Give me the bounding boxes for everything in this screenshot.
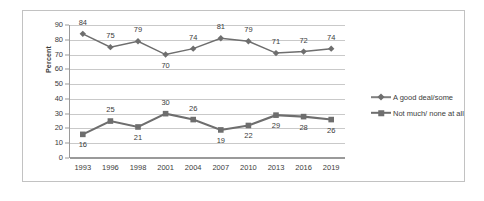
x-axis-tick-label: 2004 [185,163,202,172]
x-axis-tick-label: 1996 [102,163,119,172]
series-line [83,34,331,55]
x-axis-tick-label: 2010 [240,163,257,172]
y-axis-tick-label: 20 [55,125,63,133]
y-axis-tick-label: 80 [55,36,63,44]
chart-legend: A good deal/some Not much/ none at all [371,89,481,121]
data-label: 71 [272,38,280,46]
data-label: 84 [79,19,87,27]
data-label: 79 [244,26,252,34]
data-point-marker [108,118,114,124]
data-point-marker [328,117,334,123]
data-point-marker [190,117,196,123]
data-point-marker [190,45,196,51]
data-point-marker [162,51,168,57]
y-axis-tick-label: 30 [55,110,63,118]
legend-label: Not much/ none at all [393,109,464,118]
data-point-marker [107,44,113,50]
x-axis: 1993199619982001200420072010201320162019 [69,161,345,181]
x-axis-tick-label: 1998 [130,163,147,172]
series-lines [69,25,345,158]
data-label: 25 [106,106,114,114]
data-label: 30 [161,99,169,107]
data-label: 26 [327,127,335,135]
data-label: 19 [217,137,225,145]
data-label: 81 [217,23,225,31]
x-axis-tick-label: 1993 [74,163,91,172]
data-label: 75 [106,32,114,40]
y-axis-tick-label: 50 [55,80,63,88]
data-label: 79 [134,26,142,34]
x-axis-tick-label: 2013 [268,163,285,172]
y-axis: 9080706050403020100 [23,25,69,158]
x-axis-tick-label: 2007 [212,163,229,172]
x-axis-tick-label: 2016 [295,163,312,172]
data-label: 70 [161,62,169,70]
chart-frame: Percent 9080706050403020100 847579707481… [22,10,465,182]
x-axis-tick-label: 2019 [323,163,340,172]
gridline [70,158,345,159]
data-label: 29 [272,122,280,130]
x-axis-tick-label: 2001 [157,163,174,172]
data-label: 26 [189,105,197,113]
data-label: 28 [299,124,307,132]
legend-label: A good deal/some [393,93,453,102]
data-point-marker [218,35,224,41]
data-label: 72 [299,37,307,45]
data-label: 21 [134,134,142,142]
data-point-marker [301,114,307,120]
data-label: 22 [244,132,252,140]
legend-item-not-much-none-at-all[interactable]: Not much/ none at all [371,105,481,121]
data-point-marker [218,127,224,133]
data-point-marker [135,124,141,130]
data-point-marker [163,111,169,117]
data-point-marker [246,123,252,129]
data-label: 16 [79,141,87,149]
y-axis-tick-label: 90 [55,21,63,29]
data-point-marker [273,112,279,118]
y-axis-tick-label: 70 [55,51,63,59]
data-point-marker [300,48,306,54]
series-line [83,114,331,135]
data-point-marker [80,31,86,37]
legend-marker-diamond-icon [371,92,391,102]
y-axis-tick-label: 10 [55,139,63,147]
y-axis-tick-label: 0 [59,154,63,162]
data-point-marker [328,45,334,51]
legend-marker-square-icon [371,108,391,118]
data-label: 74 [189,34,197,42]
data-point-marker [273,50,279,56]
data-point-marker [245,38,251,44]
y-axis-tick-label: 60 [55,66,63,74]
data-point-marker [80,132,86,138]
data-point-marker [135,38,141,44]
legend-item-a-good-deal-some[interactable]: A good deal/some [371,89,481,105]
data-label: 74 [327,34,335,42]
y-axis-tick-label: 40 [55,95,63,103]
